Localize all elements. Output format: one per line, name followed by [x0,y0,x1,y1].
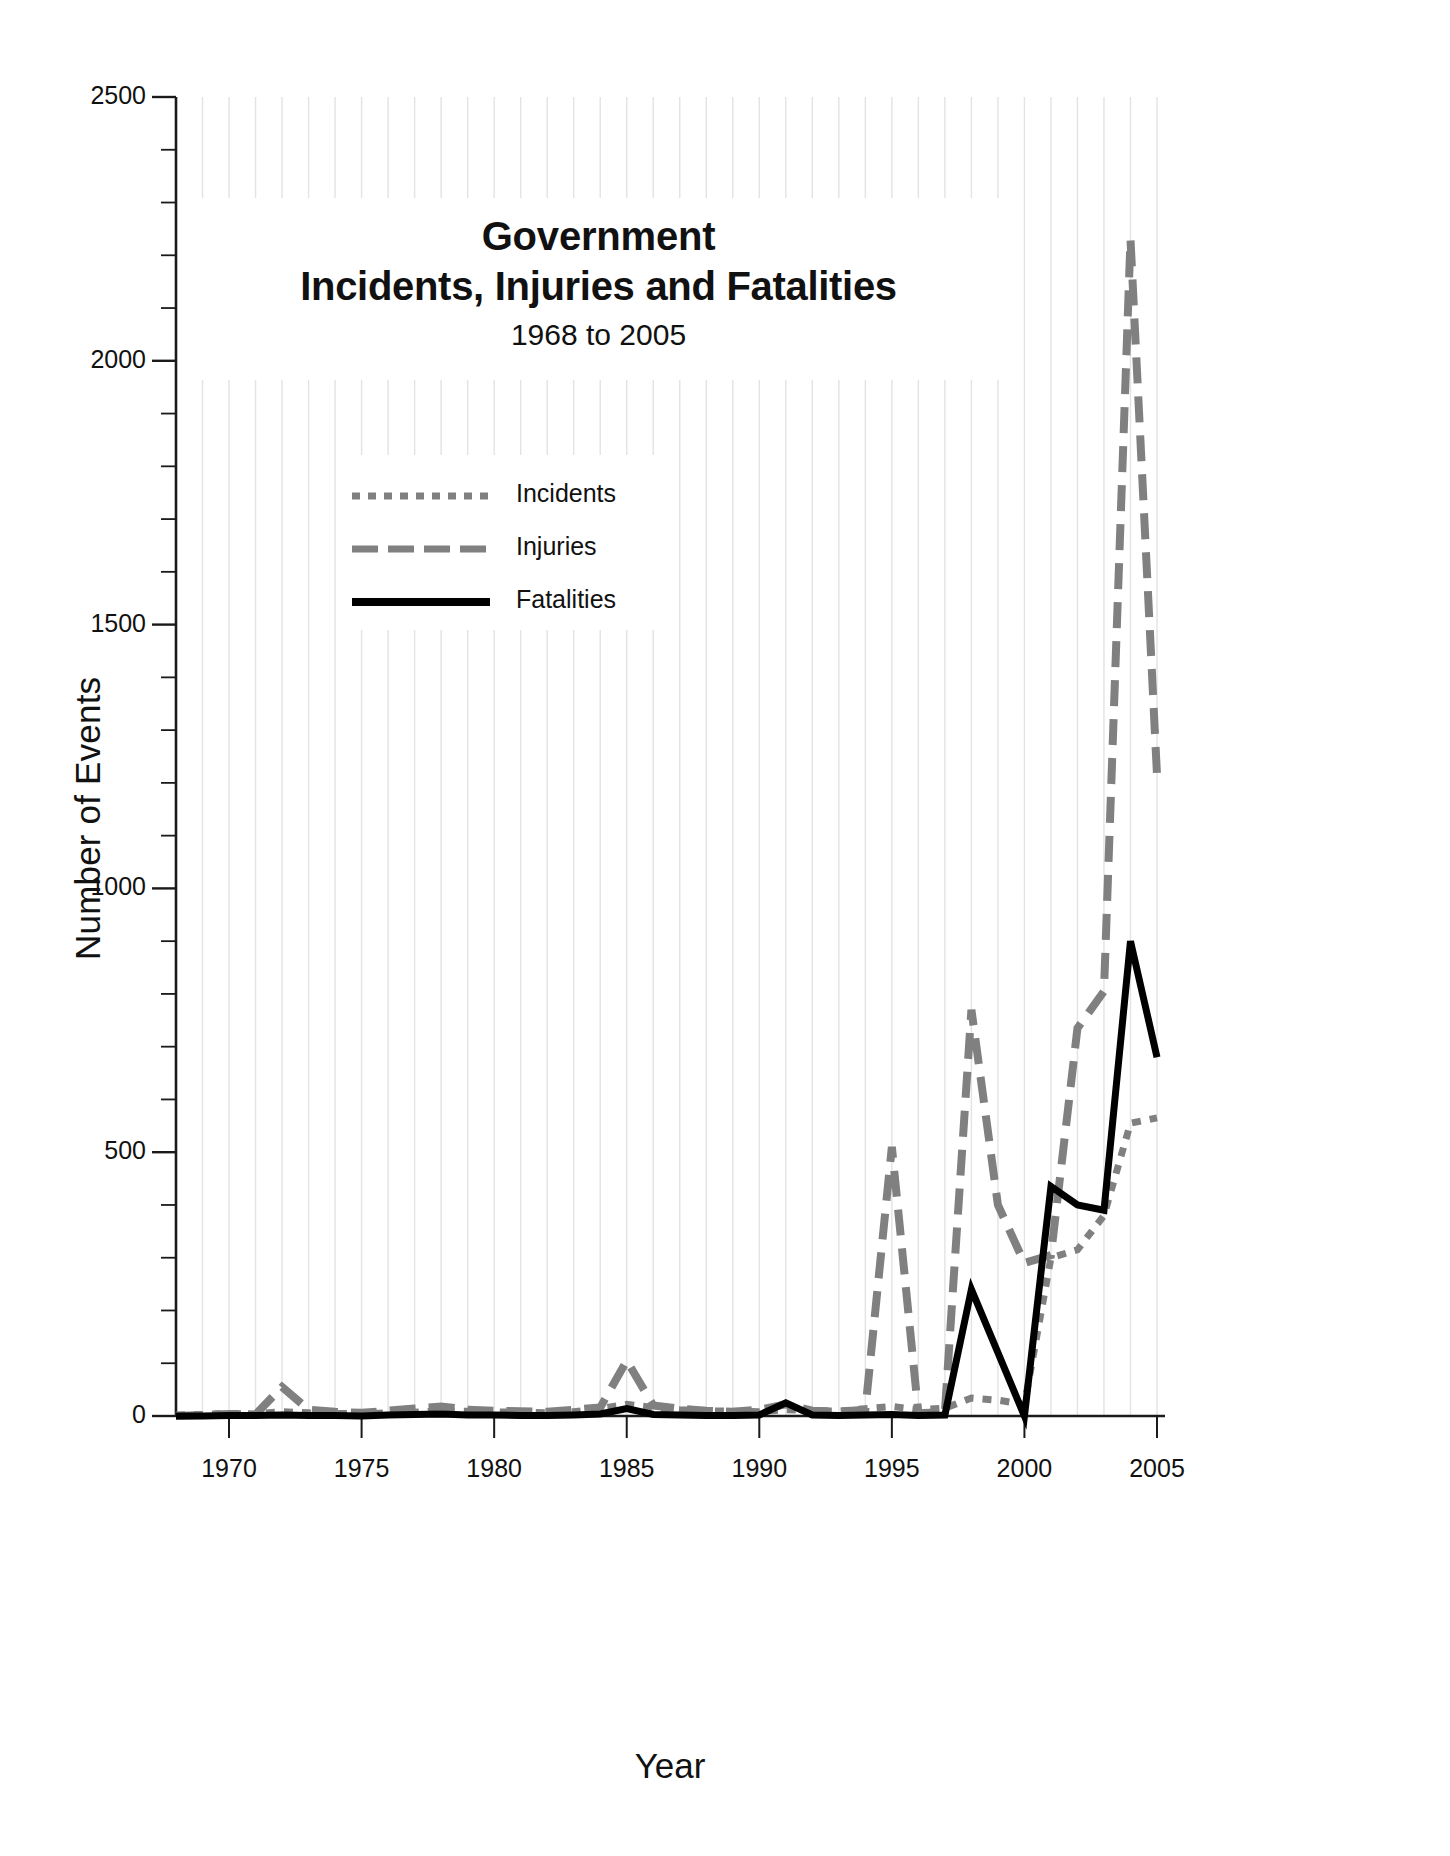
x-tick-label: 2005 [1097,1454,1217,1483]
legend-item-injuries: Injuries [352,529,652,582]
y-tick-label: 2000 [56,345,146,374]
chart-figure: 05001000150020002500 1970197519801985199… [0,0,1450,1856]
series-line-incidents [176,1118,1157,1415]
x-axis-label-wrap: Year [0,1746,1450,1786]
series-lines-group [176,239,1157,1416]
series-line-fatalities [176,941,1157,1416]
chart-plot-area [0,0,1450,1856]
x-tick-label: 1990 [699,1454,819,1483]
legend-swatch-fatalities [352,598,490,606]
y-tick-label: 0 [56,1400,146,1429]
y-axis-label-wrap: Number of Events [38,560,98,960]
legend-label-injuries: Injuries [516,532,597,561]
title-backdrop [178,198,1023,380]
x-tick-label: 1975 [302,1454,422,1483]
x-axis-label: Year [635,1746,706,1786]
legend-item-fatalities: Fatalities [352,582,652,635]
series-line-injuries [176,239,1157,1416]
legend-item-incidents: Incidents [352,476,652,529]
x-tick-label: 1970 [169,1454,289,1483]
x-tick-label: 1985 [567,1454,687,1483]
y-axis-label: Number of Events [68,677,108,960]
legend-swatch-incidents [352,492,490,500]
legend-label-incidents: Incidents [516,479,616,508]
x-tick-label: 1980 [434,1454,554,1483]
legend-label-fatalities: Fatalities [516,585,616,614]
y-tick-label: 500 [56,1136,146,1165]
legend-swatch-injuries [352,545,490,553]
chart-legend: Incidents Injuries Fatalities [352,476,652,635]
x-tick-label: 2000 [964,1454,1084,1483]
y-tick-label: 2500 [56,81,146,110]
x-tick-label: 1995 [832,1454,952,1483]
